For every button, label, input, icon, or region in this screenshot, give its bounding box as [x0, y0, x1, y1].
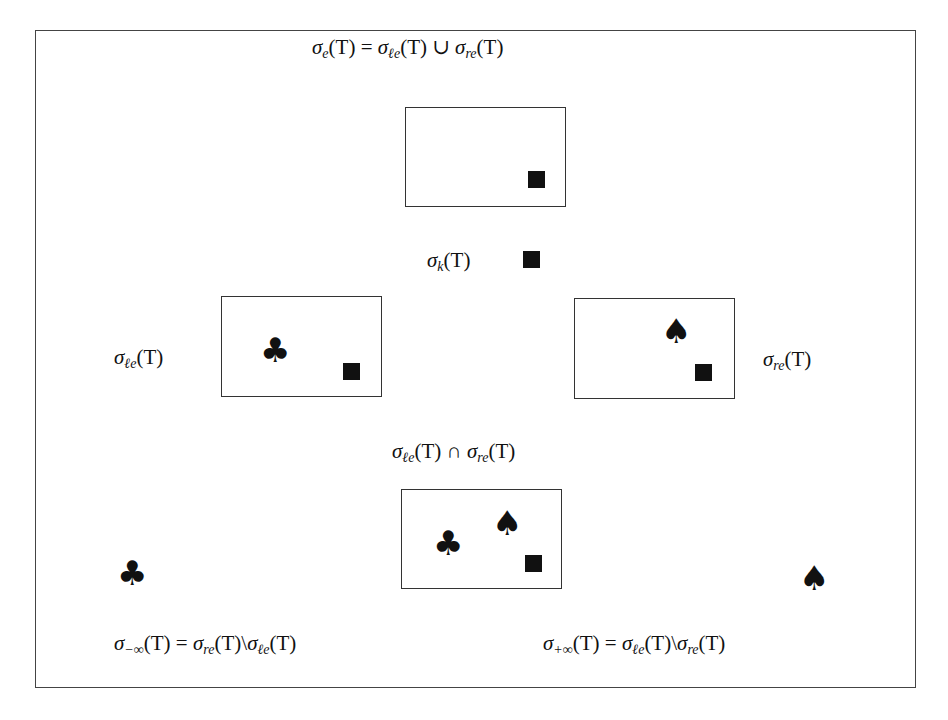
square-icon: [528, 171, 545, 188]
square-icon: [343, 363, 360, 380]
sigma-symbol: σ: [677, 631, 687, 655]
sigma-symbol: σ: [114, 631, 124, 655]
sigma-symbol: σ: [378, 35, 388, 59]
plus-infinity-spectrum-label: σ+∞(T) = σℓe(T)\σre(T): [543, 633, 725, 654]
subscript: re: [773, 358, 784, 373]
argument: (T) ∪: [400, 35, 455, 59]
club-icon: ♣: [117, 556, 147, 590]
sigma-symbol: σ: [193, 631, 203, 655]
subscript: ℓe: [388, 46, 400, 61]
intersection-box: ♣ ♠: [401, 489, 562, 589]
sigma-symbol: σ: [114, 345, 124, 369]
subscript: −∞: [124, 642, 143, 657]
sigma-symbol: σ: [247, 631, 257, 655]
square-icon: [523, 251, 540, 268]
sigma-symbol: σ: [543, 631, 553, 655]
subscript: ℓe: [632, 642, 644, 657]
intersection-label: σℓe(T) ∩ σre(T): [392, 441, 515, 462]
sigma-symbol: σ: [763, 347, 773, 371]
argument: (T)\: [644, 631, 677, 655]
square-icon: [695, 364, 712, 381]
argument: (T): [477, 35, 504, 59]
argument: (T) =: [573, 631, 622, 655]
left-essential-box: ♣: [221, 296, 382, 397]
sigma-symbol: σ: [467, 439, 477, 463]
argument: (T)\: [214, 631, 247, 655]
right-essential-box: ♠: [574, 298, 735, 399]
kernel-spectrum-label: σk(T): [427, 250, 470, 271]
argument: (T): [444, 248, 471, 272]
subscript: re: [465, 46, 476, 61]
right-essential-spectrum-label: σre(T): [763, 349, 811, 370]
square-icon: [525, 555, 542, 572]
sigma-symbol: σ: [455, 35, 465, 59]
subscript: re: [687, 642, 698, 657]
argument: (T): [785, 347, 812, 371]
argument: (T) =: [144, 631, 193, 655]
subscript: +∞: [553, 642, 572, 657]
argument: (T): [699, 631, 726, 655]
subscript: ℓe: [402, 450, 414, 465]
argument: (T): [488, 439, 515, 463]
club-icon: ♣: [433, 526, 463, 560]
argument: (T) ∩: [414, 439, 466, 463]
argument: (T): [270, 631, 297, 655]
essential-spectrum-label: σe(T) = σℓe(T) ∪ σre(T): [312, 37, 503, 58]
essential-box: [405, 107, 566, 207]
argument: (T) =: [329, 35, 378, 59]
left-essential-spectrum-label: σℓe(T): [114, 347, 163, 368]
argument: (T): [136, 345, 163, 369]
spade-icon: ♠: [661, 314, 691, 348]
subscript: ℓe: [258, 642, 270, 657]
club-icon: ♣: [260, 333, 290, 367]
subscript: re: [203, 642, 214, 657]
minus-infinity-spectrum-label: σ−∞(T) = σre(T)\σℓe(T): [114, 633, 296, 654]
sigma-symbol: σ: [312, 35, 322, 59]
spade-icon: ♠: [799, 561, 829, 595]
subscript: re: [477, 450, 488, 465]
subscript: ℓe: [124, 356, 136, 371]
spade-icon: ♠: [492, 506, 522, 540]
sigma-symbol: σ: [427, 248, 437, 272]
sigma-symbol: σ: [392, 439, 402, 463]
sigma-symbol: σ: [622, 631, 632, 655]
